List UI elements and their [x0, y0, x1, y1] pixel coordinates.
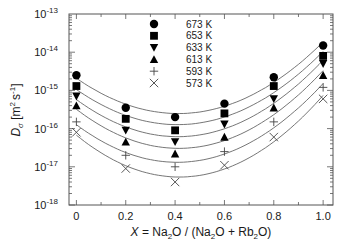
- legend-marker-cross: [150, 79, 158, 87]
- x-tick-label: 0: [73, 210, 79, 222]
- data-point-plus: [270, 118, 278, 126]
- data-point-square: [270, 82, 278, 90]
- data-point-triangle-down: [270, 95, 278, 103]
- data-point-triangle-down: [122, 127, 130, 135]
- legend-marker-square: [150, 32, 158, 40]
- data-point-plus: [319, 83, 327, 91]
- legend-label: 573 K: [186, 78, 212, 89]
- data-point-triangle-down: [319, 60, 327, 68]
- legend-marker-triangle-up: [150, 55, 158, 63]
- data-point-plus: [122, 151, 130, 159]
- y-tick-label: 10-14: [34, 44, 58, 58]
- data-point-cross: [171, 178, 179, 186]
- data-point-plus: [72, 118, 80, 126]
- data-point-square: [122, 115, 130, 123]
- y-tick-labels: 10-1310-1410-1510-1610-1710-18: [34, 6, 58, 211]
- data-point-square: [221, 109, 229, 117]
- data-point-circle: [171, 113, 179, 121]
- x-tick-labels: 00.20.40.60.81.0: [73, 210, 330, 222]
- y-axis-title: Dσ [m2s-1]: [8, 83, 25, 136]
- legend-marker-triangle-down: [150, 44, 158, 52]
- data-point-square: [73, 82, 81, 90]
- legend-label: 673 K: [186, 19, 212, 30]
- data-point-circle: [122, 104, 130, 112]
- legend: 673 K653 K633 K613 K593 K573 K: [150, 19, 213, 89]
- data-point-triangle-up: [72, 101, 80, 109]
- y-tick-label: 10-15: [34, 82, 58, 96]
- x-axis-title: X = Na2O / (Na2O + Rb2O): [130, 225, 272, 241]
- x-tick-label: 0.4: [167, 210, 182, 222]
- data-point-triangle-down: [72, 93, 80, 101]
- data-point-circle: [270, 73, 278, 81]
- chart: 10-1310-1410-1510-1610-1710-18 00.20.40.…: [0, 0, 351, 245]
- data-point-circle: [72, 71, 80, 79]
- x-tick-label: 0.2: [118, 210, 133, 222]
- data-point-triangle-up: [171, 150, 179, 158]
- data-point-square: [171, 126, 179, 134]
- data-point-plus: [171, 163, 179, 171]
- legend-label: 633 K: [186, 42, 212, 53]
- x-tick-label: 0.8: [266, 210, 281, 222]
- y-tick-label: 10-13: [34, 6, 58, 20]
- legend-marker-circle: [150, 20, 158, 28]
- data-point-circle: [319, 41, 327, 49]
- x-tick-label: 0.6: [217, 210, 232, 222]
- legend-label: 593 K: [186, 66, 212, 77]
- y-tick-label: 10-16: [34, 121, 58, 135]
- legend-label: 653 K: [186, 30, 212, 41]
- data-point-triangle-up: [220, 133, 228, 141]
- data-point-triangle-up: [319, 71, 327, 79]
- data-point-triangle-down: [171, 138, 179, 146]
- data-point-circle: [220, 99, 228, 107]
- data-point-cross: [220, 161, 228, 169]
- data-point-square: [319, 52, 327, 60]
- y-tick-label: 10-17: [34, 159, 58, 173]
- x-tick-label: 1.0: [315, 210, 330, 222]
- legend-marker-plus: [150, 67, 158, 75]
- fit-curve-573K: [76, 95, 323, 177]
- data-point-cross: [270, 133, 278, 141]
- y-tick-label: 10-18: [34, 197, 58, 211]
- legend-label: 613 K: [186, 54, 212, 65]
